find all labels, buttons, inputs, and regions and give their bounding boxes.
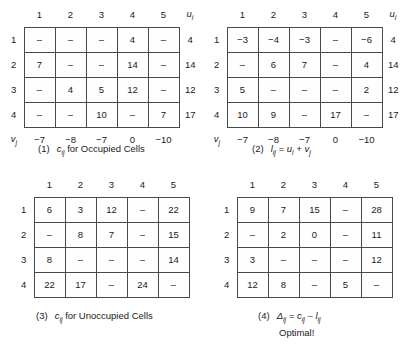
matrix-cell: 28: [361, 197, 392, 222]
table-row: 2 – 6 7 – 4 14: [207, 52, 404, 77]
matrix-cell: –: [34, 222, 65, 247]
matrix-cell: –: [158, 272, 189, 297]
matrix-cell: –: [127, 197, 158, 222]
caption-text: for Occupied Cells: [65, 143, 145, 154]
matrix-cell: −3: [227, 27, 258, 52]
v-subscript: j: [16, 139, 18, 146]
row-header: 1: [14, 197, 34, 222]
matrix-cell: 17: [320, 102, 351, 127]
column-header: 1: [227, 2, 258, 27]
matrix-cell: 22: [34, 272, 65, 297]
matrix-cell: 14: [158, 247, 189, 272]
column-header: 5: [158, 172, 189, 197]
v-footer-spacer: [382, 127, 404, 152]
corner-spacer: [4, 2, 24, 27]
u-column-header: ui: [382, 2, 404, 27]
matrix-cell: 12: [361, 247, 392, 272]
matrix-cell: –: [24, 77, 55, 102]
caption-number: (1): [38, 143, 50, 154]
table-row: 3 3 – – – 12: [217, 247, 392, 272]
u-subscript: i: [395, 14, 397, 21]
caption-text-2: – l: [305, 310, 318, 321]
caption-occupied-costs: (1)cij for Occupied Cells: [38, 143, 145, 156]
column-header: 2: [268, 172, 299, 197]
matrix-cell: –: [330, 222, 361, 247]
matrix-cell: –: [96, 272, 127, 297]
matrix-cell: 7: [24, 52, 55, 77]
matrix-cell: 4: [351, 52, 382, 77]
caption-number: (3): [36, 310, 48, 321]
caption-number: (2): [252, 143, 264, 154]
row-header: 2: [4, 52, 24, 77]
matrix-cell: 15: [158, 222, 189, 247]
caption-text: = u: [276, 143, 292, 154]
matrix-cell: 12: [237, 272, 268, 297]
optimal-note: Optimal!: [279, 327, 314, 338]
table-row: 1 −3 −4 −3 – −6 4: [207, 27, 404, 52]
caption-text: = c: [286, 310, 302, 321]
matrix-cell: –: [237, 222, 268, 247]
matrix-panel-occupied-costs: 1 2 3 4 5 ui 1 – – – 4 – 4 2 7 – – 1: [4, 2, 201, 152]
row-header: 4: [14, 272, 34, 297]
row-header: 3: [217, 247, 237, 272]
corner-spacer: [217, 172, 237, 197]
matrix-cell: 7: [289, 52, 320, 77]
matrix-cell: 10: [86, 102, 117, 127]
matrix-cell: 4: [117, 27, 148, 52]
matrix-cell: −4: [258, 27, 289, 52]
matrix-cell: 5: [330, 272, 361, 297]
matrix-cell: –: [299, 272, 330, 297]
column-header-row: 1 2 3 4 5: [217, 172, 392, 197]
v-value: 0: [320, 127, 351, 152]
column-header: 3: [86, 2, 117, 27]
v-footer-spacer: [179, 127, 201, 152]
column-header: 2: [65, 172, 96, 197]
row-header: 4: [207, 102, 227, 127]
matrix-cell: –: [148, 52, 179, 77]
v-row-label: vj: [207, 127, 227, 152]
column-header-row: 1 2 3 4 5 ui: [4, 2, 201, 27]
matrix-cell: –: [351, 102, 382, 127]
matrix-cell: 4: [55, 77, 86, 102]
matrix-panel-lij: 1 2 3 4 5 ui 1 −3 −4 −3 – −6 4 2 – 6 7: [207, 2, 404, 152]
matrix-cell: −3: [289, 27, 320, 52]
v-value: −10: [351, 127, 382, 152]
matrix-cell: 9: [258, 102, 289, 127]
matrix-cell: –: [127, 222, 158, 247]
row-header: 3: [207, 77, 227, 102]
caption-lij-formula: (2)lij = ui + vj: [252, 143, 311, 156]
matrix-cell: 7: [96, 222, 127, 247]
table-row: 4 12 8 – 5 –: [217, 272, 392, 297]
u-value: 4: [382, 27, 404, 52]
matrix-table: 1 2 3 4 5 ui 1 – – – 4 – 4 2 7 – – 1: [4, 2, 201, 152]
matrix-cell: –: [55, 27, 86, 52]
matrix-body: 1 2 3 4 5 1 6 3 12 – 22 2 – 8 7 – 15: [14, 172, 189, 297]
row-header: 3: [14, 247, 34, 272]
table-row: 3 5 – – – 2 12: [207, 77, 404, 102]
column-header: 5: [361, 172, 392, 197]
table-row: 1 6 3 12 – 22: [14, 197, 189, 222]
matrix-cell: 8: [65, 222, 96, 247]
matrix-cell: –: [289, 102, 320, 127]
u-value: 4: [179, 27, 201, 52]
matrix-cell: 8: [34, 247, 65, 272]
matrix-cell: 5: [227, 77, 258, 102]
row-header: 1: [207, 27, 227, 52]
matrix-cell: −6: [351, 27, 382, 52]
column-header: 4: [330, 172, 361, 197]
matrix-cell: 7: [268, 197, 299, 222]
caption-subscript-3: j: [309, 149, 311, 156]
matrix-cell: –: [86, 52, 117, 77]
u-subscript: i: [192, 14, 194, 21]
v-value: −10: [148, 127, 179, 152]
caption-delta-formula: (4)Δij = cij – lij: [258, 310, 321, 323]
matrix-cell: 3: [237, 247, 268, 272]
column-header: 4: [117, 2, 148, 27]
table-row: 4 – – 10 – 7 17: [4, 102, 201, 127]
matrix-cell: –: [24, 27, 55, 52]
table-row: 2 – 8 7 – 15: [14, 222, 189, 247]
matrix-body: 1 2 3 4 5 ui 1 −3 −4 −3 – −6 4 2 – 6 7: [207, 2, 404, 152]
column-header: 2: [258, 2, 289, 27]
matrix-cell: –: [24, 102, 55, 127]
corner-spacer: [207, 2, 227, 27]
